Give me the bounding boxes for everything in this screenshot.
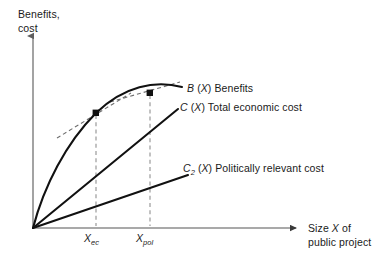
x-tick-label-xpol: Xpol [136,232,153,247]
total-cost-label-text: Total economic cost [208,101,302,113]
curve-label-total-cost: C (X) Total economic cost [180,101,302,114]
curve-label-political-cost: C2 (X) Politically relevant cost [183,162,324,177]
benefits-arg-variable: X [201,82,208,94]
political-cost-subscript: 2 [191,168,195,177]
political-cost-arg-variable: X [201,162,208,174]
y-axis-label-line1: Benefits, [18,8,60,20]
total-cost-symbol: C [180,101,188,113]
point-xec [93,110,99,116]
curve-political-cost [33,175,188,228]
curve-benefits [33,84,182,228]
total-cost-arg-variable: X [194,101,201,113]
curve-label-benefits: B (X) Benefits [187,82,253,95]
tick-xpol-subscript: pol [143,238,153,247]
political-cost-label-text: Politically relevant cost [215,162,324,174]
x-tick-label-xec: Xec [84,232,99,247]
political-cost-symbol: C [183,162,191,174]
y-axis-label-line2: cost [18,22,38,34]
tick-xec-subscript: ec [91,238,99,247]
curve-total-cost [33,109,178,228]
benefits-label-text: Benefits [214,82,253,94]
benefits-symbol: B [187,82,194,94]
economics-diagram: Benefits, cost Size X of public project … [0,0,384,255]
point-xpol [147,90,153,96]
y-axis-label: Benefits, cost [18,7,60,35]
x-axis-label: Size X of public project [308,221,371,249]
x-axis-label-variable: X [332,222,339,234]
x-axis-label-line2: public project [308,236,371,248]
plot-canvas [0,0,384,255]
